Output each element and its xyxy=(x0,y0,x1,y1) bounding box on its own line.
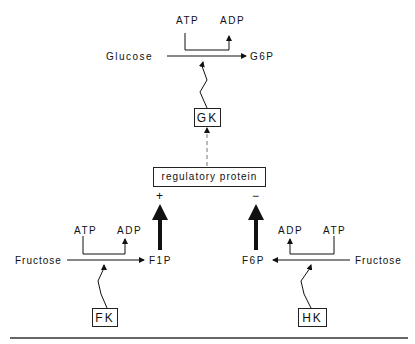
activation-plus-sign: + xyxy=(156,190,163,202)
fk-label: FK xyxy=(95,312,114,324)
hk-label: HK xyxy=(302,312,323,324)
fk-atp-label: ATP xyxy=(74,225,97,236)
f1p-label: F1P xyxy=(149,255,172,266)
regulatory-protein-label: regulatory protein xyxy=(162,172,258,182)
fk-fructose-label: Fructose xyxy=(15,255,62,266)
glucose-atp-label: ATP xyxy=(176,15,199,26)
regulatory-protein-box: regulatory protein xyxy=(153,167,266,187)
hk-atp-label: ATP xyxy=(323,225,346,236)
inhibition-minus-sign: − xyxy=(252,190,259,202)
glucose-atp-adp-bracket xyxy=(185,33,229,50)
glucose-adp-label: ADP xyxy=(220,15,245,26)
gk-enzyme-box: GK xyxy=(194,108,221,127)
gk-label: GK xyxy=(197,112,218,124)
f6p-label: F6P xyxy=(242,255,265,266)
hk-adp-label: ADP xyxy=(278,225,303,236)
fk-adp-label: ADP xyxy=(117,225,142,236)
hk-fructose-label: Fructose xyxy=(355,255,402,266)
gk-catalysis-zigzag xyxy=(200,62,207,108)
fk-atp-adp-bracket xyxy=(83,236,125,254)
g6p-label: G6P xyxy=(250,51,275,62)
glucose-label: Glucose xyxy=(106,51,153,62)
hk-enzyme-box: HK xyxy=(298,308,327,327)
hk-atp-adp-bracket xyxy=(290,236,334,254)
fk-catalysis-zigzag xyxy=(98,265,107,308)
fk-enzyme-box: FK xyxy=(92,308,118,327)
hk-catalysis-zigzag xyxy=(301,265,311,308)
